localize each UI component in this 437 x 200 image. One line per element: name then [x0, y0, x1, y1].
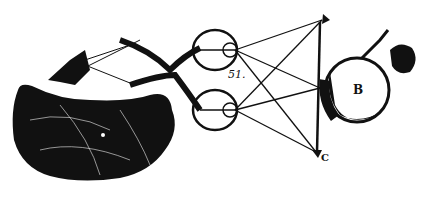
- figure-number-label: 51.: [228, 68, 246, 81]
- apple-object: [324, 30, 415, 122]
- vision-diagram: [0, 0, 437, 200]
- pineal-gland: [48, 50, 90, 85]
- light-rays: [200, 20, 322, 152]
- apple-label: B: [353, 83, 363, 97]
- brain-tissue: [13, 85, 175, 181]
- arrow-bottom-label: C: [321, 152, 329, 163]
